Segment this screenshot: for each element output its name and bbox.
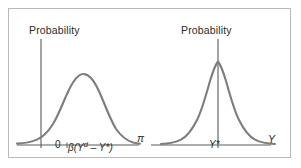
x-axis-label-pi: π	[137, 133, 144, 144]
probability-density-curve	[17, 74, 140, 144]
expr-y-d: Y	[77, 142, 84, 153]
x-axis-label-y: Y	[268, 134, 275, 145]
expr-y-star: Y*	[99, 142, 110, 153]
expr-minus: –	[88, 142, 99, 153]
figure-container: Probability 0 β(Yd – Y*) π Probability Y…	[0, 0, 301, 168]
x-axis-tick-label-y-star: Y*	[209, 140, 220, 150]
x-axis-tick-label-mean-expression: β(Yd – Y*)	[68, 141, 113, 153]
figure-frame: Probability 0 β(Yd – Y*) π Probability Y…	[8, 8, 291, 158]
chart-panel-inflation: Probability 0 β(Yd – Y*) π	[11, 9, 151, 159]
expr-close-paren: )	[109, 142, 112, 153]
y-axis-label-probability: Probability	[29, 25, 80, 36]
x-axis-tick-label-zero: 0	[55, 140, 61, 150]
expr-beta-open: β(	[68, 142, 77, 153]
chart-panel-output: Probability Y* Y	[149, 9, 289, 159]
y-axis-label-probability: Probability	[181, 25, 232, 36]
